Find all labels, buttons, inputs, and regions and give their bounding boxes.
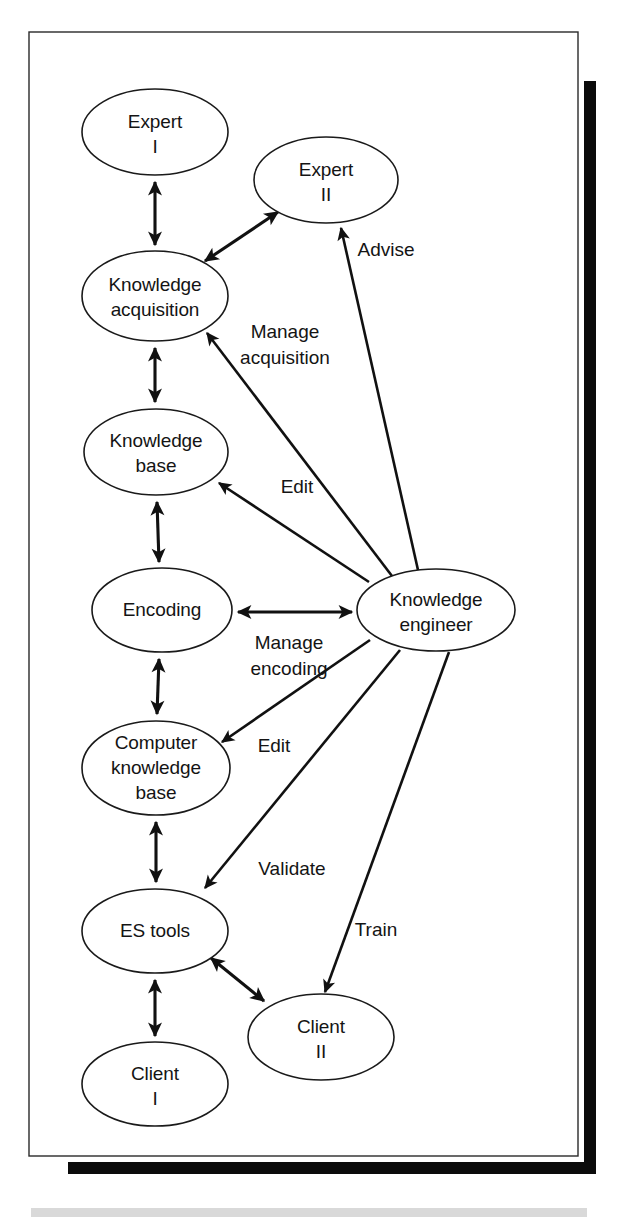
node-label-knowledge-base-line2: base	[136, 455, 177, 476]
node-knowledge-acquisition[interactable]: Knowledge acquisition	[82, 251, 228, 341]
node-label-knowledge-engineer-line1: Knowledge	[389, 589, 482, 610]
node-label-client-1-line2: I	[152, 1088, 157, 1109]
node-label-expert-2-line1: Expert	[299, 159, 354, 180]
edge-label-advise: Advise	[357, 239, 414, 260]
node-label-computer-knowledge-base-line1: Computer	[115, 732, 198, 753]
node-label-computer-knowledge-base-line2: knowledge	[111, 757, 201, 778]
bottom-strip	[31, 1208, 587, 1217]
node-shape-knowledge-acquisition[interactable]	[82, 251, 228, 341]
node-label-knowledge-acquisition-line1: Knowledge	[108, 274, 201, 295]
figure-root: Advise Manage acquisition Edit Manage en…	[0, 0, 617, 1225]
node-computer-knowledge-base[interactable]: Computer knowledge base	[82, 721, 230, 815]
edge-label-manage-acquisition-line2: acquisition	[240, 347, 330, 368]
node-label-computer-knowledge-base-line3: base	[136, 782, 177, 803]
node-expert-2[interactable]: Expert II	[254, 137, 398, 223]
node-label-knowledge-engineer-line2: engineer	[399, 614, 473, 635]
edge-label-edit-lower: Edit	[258, 735, 291, 756]
node-label-knowledge-acquisition-line2: acquisition	[111, 299, 200, 320]
node-es-tools[interactable]: ES tools	[82, 889, 228, 973]
edge-label-manage-encoding-line2: encoding	[250, 658, 327, 679]
edge-knowledgebase-encoding	[157, 502, 159, 562]
node-shape-knowledge-base[interactable]	[84, 409, 228, 495]
node-label-client-2-line2: II	[316, 1041, 326, 1062]
node-label-client-1-line1: Client	[131, 1063, 180, 1084]
node-label-es-tools: ES tools	[120, 920, 190, 941]
edge-label-edit-upper: Edit	[281, 476, 314, 497]
node-label-knowledge-base-line1: Knowledge	[109, 430, 202, 451]
node-client-1[interactable]: Client I	[82, 1042, 228, 1126]
node-encoding[interactable]: Encoding	[92, 568, 232, 652]
node-label-client-2-line1: Client	[297, 1016, 346, 1037]
node-client-2[interactable]: Client II	[248, 994, 394, 1080]
edge-label-train: Train	[355, 919, 398, 940]
node-label-encoding: Encoding	[123, 599, 201, 620]
node-label-expert-1-line1: Expert	[128, 111, 183, 132]
edge-label-manage-acquisition-line1: Manage	[251, 321, 320, 342]
node-knowledge-base[interactable]: Knowledge base	[84, 409, 228, 495]
edge-label-manage-encoding-line1: Manage	[255, 632, 324, 653]
frame-shadow-right	[584, 81, 596, 1173]
frame-shadow-bottom	[68, 1162, 596, 1174]
edge-label-validate: Validate	[258, 858, 325, 879]
node-knowledge-engineer[interactable]: Knowledge engineer	[357, 569, 515, 651]
node-label-expert-1-line2: I	[152, 136, 157, 157]
expert-system-diagram: Advise Manage acquisition Edit Manage en…	[0, 0, 617, 1225]
edge-encoding-computerkb	[157, 659, 159, 714]
node-label-expert-2-line2: II	[321, 184, 331, 205]
node-expert-1[interactable]: Expert I	[82, 89, 228, 175]
